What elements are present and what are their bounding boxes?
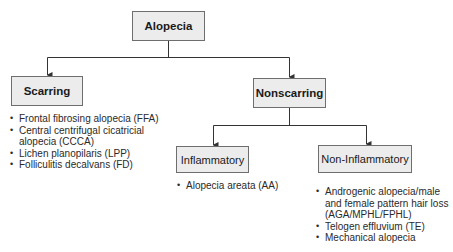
non-inflammatory-list: Androgenic alopecia/male and female patt… xyxy=(316,186,452,244)
node-alopecia: Alopecia xyxy=(132,11,205,41)
node-nonscarring: Nonscarring xyxy=(253,78,326,108)
node-label: Nonscarring xyxy=(256,87,324,99)
node-label: Scarring xyxy=(24,85,71,97)
list-item: Folliculitis decalvans (FD) xyxy=(10,159,160,171)
node-scarring: Scarring xyxy=(11,76,83,106)
scarring-list: Frontal fibrosing alopecia (FFA) Central… xyxy=(10,113,160,171)
node-label: Non-Inflammatory xyxy=(321,153,408,165)
list-item: Lichen planopilaris (LPP) xyxy=(10,148,160,160)
list-item: Telogen effluvium (TE) xyxy=(316,221,452,233)
node-label: Inflammatory xyxy=(181,154,245,166)
node-label: Alopecia xyxy=(145,20,193,32)
inflammatory-list: Alopecia areata (AA) xyxy=(177,180,307,192)
node-inflammatory: Inflammatory xyxy=(176,146,249,173)
list-item: Androgenic alopecia/male and female patt… xyxy=(316,186,452,221)
list-item: Central centrifugal cicatricial alopecia… xyxy=(10,125,160,148)
list-item: Mechanical alopecia xyxy=(316,232,452,244)
list-item: Frontal fibrosing alopecia (FFA) xyxy=(10,113,160,125)
node-non-inflammatory: Non-Inflammatory xyxy=(318,145,412,173)
list-item: Alopecia areata (AA) xyxy=(177,180,307,192)
